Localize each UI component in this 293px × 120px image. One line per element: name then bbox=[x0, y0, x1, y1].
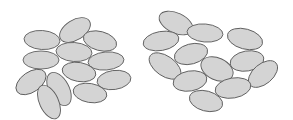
ellipse-cell bbox=[225, 25, 265, 54]
ellipse-packing-diagram bbox=[0, 0, 293, 120]
left-cluster-dense bbox=[11, 13, 132, 120]
ellipse-cell bbox=[23, 29, 60, 50]
right-cluster-sparse bbox=[142, 6, 283, 115]
diagram-canvas bbox=[0, 0, 293, 120]
ellipse-cell bbox=[186, 22, 223, 43]
ellipse-cell bbox=[23, 51, 59, 69]
